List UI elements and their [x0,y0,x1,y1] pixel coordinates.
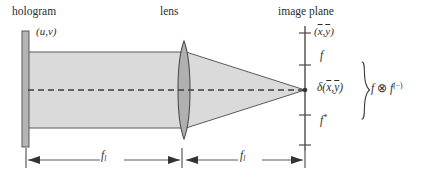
label-output-y: y [325,25,330,37]
dimension-label-right: fl [240,150,245,162]
axis-tick-label-f: f [320,50,323,62]
dim-arrow-right-start [186,156,198,164]
label-output-coordinates: (x,y) [314,26,334,37]
label-correlation-expression: f ⊗ f(−) [371,82,402,94]
label-hologram: hologram [12,6,56,18]
label-image-plane: image plane [278,6,334,18]
label-delta-function: δ(x,y) [317,82,343,94]
dim-left-subscript: l [104,154,106,163]
optics-diagram-figure: hologram lens image plane (u,v) (x,y) f … [0,0,423,180]
corr-f1: f [371,82,374,94]
corr-operator: ⊗ [377,82,387,94]
grouping-brace [362,62,370,119]
dim-arrow-left-end [168,156,180,164]
dimension-label-left: fl [101,150,106,162]
f-star-superscript: * [323,113,327,122]
label-lens: lens [160,6,179,18]
delta-open: δ( [317,81,326,93]
corr-superscript: (−) [393,81,402,90]
dim-right-subscript: l [243,154,245,163]
delta-arg-x: x [326,81,331,93]
axis-tick-label-f-star: f* [320,114,327,126]
focus-point-marker [303,88,308,93]
dim-arrow-right-end [291,156,303,164]
hologram-plate [22,31,29,147]
diagram-canvas [0,0,423,180]
label-output-x: x [318,25,323,37]
label-input-coordinates: (u,v) [36,26,56,37]
dim-arrow-left-start [28,156,40,164]
delta-close: ) [339,81,343,93]
